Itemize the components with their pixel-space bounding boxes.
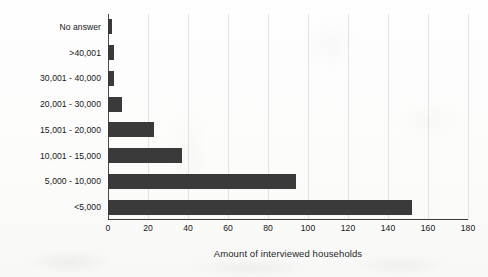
y-axis-tick-label: <5,000 (24, 194, 106, 220)
x-axis-tick-labels: 020406080100120140160180 (108, 223, 468, 237)
bar (108, 200, 412, 215)
bar-row (108, 40, 468, 66)
bar (108, 19, 112, 34)
x-axis-tick-label: 180 (461, 223, 475, 233)
gridline (468, 14, 469, 220)
x-axis-tick-label: 100 (301, 223, 315, 233)
x-axis-tick-label: 160 (421, 223, 435, 233)
x-axis-title: Amount of interviewed households (108, 248, 468, 259)
y-axis-title: Income per household (K.Sh.) (14, 243, 28, 277)
x-axis-tick-label: 60 (223, 223, 233, 233)
x-axis-tick-label: 80 (263, 223, 273, 233)
bar-chart: Income per household (K.Sh.) No answer>4… (0, 0, 488, 277)
x-axis-tick-label: 20 (143, 223, 153, 233)
bar (108, 71, 114, 86)
bar (108, 122, 154, 137)
y-axis-tick-labels: No answer>40,00130,001 - 40,00020,001 - … (24, 14, 106, 220)
bar-row (108, 91, 468, 117)
bar-row (108, 194, 468, 220)
y-axis-tick-label: >40,001 (24, 40, 106, 66)
y-axis-tick-label: 20,001 - 30,000 (24, 91, 106, 117)
bar-row (108, 14, 468, 40)
y-axis-tick-label: 10,001 - 15,000 (24, 143, 106, 169)
x-axis-tick-label: 0 (106, 223, 111, 233)
bar-row (108, 66, 468, 92)
bar (108, 174, 296, 189)
x-axis-tick-label: 40 (183, 223, 193, 233)
y-axis-tick-label: 30,001 - 40,000 (24, 66, 106, 92)
x-axis-tick-label: 120 (341, 223, 355, 233)
x-axis-tick-label: 140 (381, 223, 395, 233)
y-axis-tick-label: 15,001 - 20,000 (24, 117, 106, 143)
bar (108, 45, 114, 60)
y-axis-tick-label: No answer (24, 14, 106, 40)
bar-row (108, 143, 468, 169)
x-axis-line (108, 219, 468, 220)
y-axis-tick-label: 5,000 - 10,000 (24, 169, 106, 195)
bar-series (108, 14, 468, 220)
bar-row (108, 169, 468, 195)
bar (108, 97, 122, 112)
plot-area (108, 14, 468, 220)
bar (108, 148, 182, 163)
bar-row (108, 117, 468, 143)
